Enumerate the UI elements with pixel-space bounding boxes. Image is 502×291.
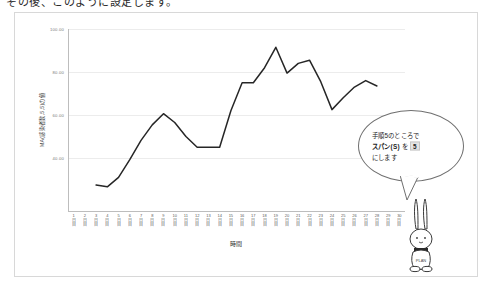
y-tick-label-100: 100.00 <box>50 27 64 32</box>
y-axis-title: MA(感染者数,5,5)の値 <box>38 93 45 147</box>
x-tick-label-26: 26日目 <box>351 214 358 228</box>
x-tick-label-11: 11日目 <box>182 214 189 228</box>
x-tick-label-2: 2日目 <box>81 214 88 228</box>
y-tick-label-80: 80.00 <box>53 70 64 75</box>
y-tick-label-40: 40.00 <box>53 156 64 161</box>
callout-bubble: 手順5のところで スパン(S) を 5 にします <box>358 110 464 182</box>
x-axis-title: 時間 <box>230 239 243 248</box>
series-polyline <box>68 29 405 212</box>
callout-span-label: スパン(S) <box>372 143 400 150</box>
x-tick-label-9: 9日目 <box>160 214 167 228</box>
x-tick-label-21: 21日目 <box>295 214 302 228</box>
x-tick-label-29: 29日目 <box>385 214 392 228</box>
callout-text: 手順5のところで スパン(S) を 5 にします <box>372 130 450 163</box>
x-tick-label-19: 19日目 <box>272 214 279 228</box>
x-tick-label-28: 28日目 <box>373 214 380 228</box>
cropped-heading-text: その後、このように設定します。 <box>6 0 178 9</box>
cropped-heading-strip: その後、このように設定します。 <box>0 0 502 11</box>
callout-line-3: にします <box>372 152 450 163</box>
x-tick-label-13: 13日目 <box>205 214 212 228</box>
x-tick-label-5: 5日目 <box>115 214 122 228</box>
x-tick-label-27: 27日目 <box>362 214 369 228</box>
x-tick-label-18: 18日目 <box>261 214 268 228</box>
x-tick-label-4: 4日目 <box>104 214 111 228</box>
x-tick-label-3: 3日目 <box>93 214 100 228</box>
x-tick-label-24: 24日目 <box>328 214 335 228</box>
rabbit-mascot: PLAN <box>398 195 444 273</box>
x-tick-label-20: 20日目 <box>284 214 291 228</box>
x-tick-label-1: 1日目 <box>70 214 77 228</box>
callout-line-2: スパン(S) を 5 <box>372 141 450 152</box>
x-tick-label-23: 23日目 <box>317 214 324 228</box>
x-tick-label-8: 8日目 <box>149 214 156 228</box>
x-tick-label-14: 14日目 <box>216 214 223 228</box>
x-tick-label-16: 16日目 <box>239 214 246 228</box>
callout-line-1: 手順5のところで <box>372 130 450 141</box>
x-tick-label-25: 25日目 <box>340 214 347 228</box>
x-tick-label-7: 7日目 <box>138 214 145 228</box>
rabbit-body-label: PLAN <box>416 258 427 263</box>
x-tick-label-6: 6日目 <box>126 214 133 228</box>
callout-value-highlight: 5 <box>410 142 420 151</box>
x-tick-label-12: 12日目 <box>194 214 201 228</box>
x-tick-label-10: 10日目 <box>171 214 178 228</box>
callout-particle: を <box>402 143 408 150</box>
x-tick-label-17: 17日目 <box>250 214 257 228</box>
y-tick-label-60: 60.00 <box>53 113 64 118</box>
x-tick-label-22: 22日目 <box>306 214 313 228</box>
x-tick-label-15: 15日目 <box>227 214 234 228</box>
